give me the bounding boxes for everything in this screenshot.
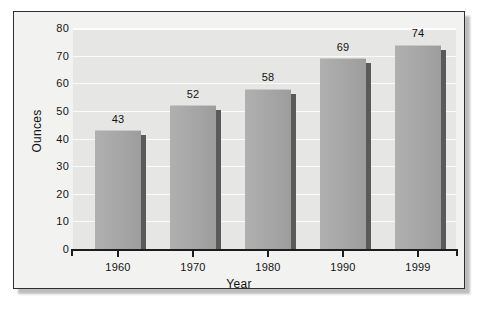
bar-body	[170, 105, 216, 249]
bar-1999[interactable]	[395, 45, 441, 249]
x-tick-label-1980: 1980	[230, 261, 306, 273]
y-tick-20: 20	[39, 189, 69, 200]
y-tick-0: 0	[39, 244, 69, 255]
bar-1990[interactable]	[320, 58, 366, 249]
bar-value-1970: 52	[163, 88, 223, 100]
x-axis-left-cap	[71, 249, 73, 256]
plot-area: 43 52 58 69	[73, 28, 456, 249]
bar-body	[320, 58, 366, 249]
x-tick-1970	[192, 251, 194, 257]
bar-shadow-edge	[141, 135, 146, 249]
bar-body	[395, 45, 441, 249]
x-tick-label-1999: 1999	[380, 261, 456, 273]
x-tick-label-1990: 1990	[305, 261, 381, 273]
bar-1980[interactable]	[245, 89, 291, 249]
bar-1960[interactable]	[95, 130, 141, 249]
bar-body	[245, 89, 291, 249]
bar-1970[interactable]	[170, 105, 216, 249]
chart-figure-frame: 43 52 58 69	[13, 11, 465, 289]
y-axis-title: Ounces	[30, 86, 44, 176]
x-axis-title: Year	[14, 277, 464, 291]
x-axis-line	[71, 249, 458, 251]
y-tick-70: 70	[39, 51, 69, 62]
x-tick-label-1970: 1970	[155, 261, 231, 273]
bar-value-1960: 43	[88, 113, 148, 125]
y-tick-10: 10	[39, 216, 69, 227]
bar-value-1980: 58	[238, 71, 298, 83]
x-tick-label-1960: 1960	[80, 261, 156, 273]
bar-value-1999: 74	[388, 27, 448, 39]
bar-shadow-edge	[291, 94, 296, 249]
bar-body	[95, 130, 141, 249]
bar-shadow-edge	[366, 63, 371, 249]
x-tick-1990	[342, 251, 344, 257]
x-tick-1960	[117, 251, 119, 257]
x-axis-right-cap	[456, 249, 458, 256]
scanned-page-background: 43 52 58 69	[0, 0, 484, 309]
y-tick-80: 80	[39, 23, 69, 34]
bar-shadow-edge	[441, 50, 446, 249]
bar-chart: 43 52 58 69	[14, 12, 464, 288]
x-tick-1980	[267, 251, 269, 257]
bar-value-1990: 69	[313, 41, 373, 53]
x-tick-1999	[417, 251, 419, 257]
bar-shadow-edge	[216, 110, 221, 249]
